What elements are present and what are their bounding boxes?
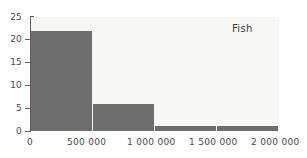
y-tick-label-25: 25 [0, 13, 22, 22]
histogram-bar [31, 31, 93, 131]
histogram-bar [155, 126, 217, 131]
histogram-bar [93, 104, 155, 131]
x-tick-label-1m: 1 000 000 [127, 138, 176, 147]
x-tick-label-500k: 500 000 [67, 138, 106, 147]
y-tick-label-20: 20 [0, 35, 22, 44]
series-annotation-label: Fish [232, 24, 253, 34]
y-tick-label-5: 5 [0, 104, 22, 113]
x-tick-label-0: 0 [27, 138, 33, 147]
y-tick-label-15: 15 [0, 58, 22, 67]
y-axis-cap [30, 16, 34, 17]
y-tick-label-10: 10 [0, 81, 22, 90]
x-tick-label-1500k: 1 500 000 [189, 138, 238, 147]
y-tick-label-0: 0 [0, 127, 22, 136]
y-tick-mark-0 [25, 131, 31, 132]
fish-histogram-chart: 0 5 10 15 20 25 0 500 000 1 000 000 1 50… [0, 0, 307, 158]
histogram-bar [217, 126, 279, 131]
x-tick-label-2m: 2 000 000 [251, 138, 300, 147]
